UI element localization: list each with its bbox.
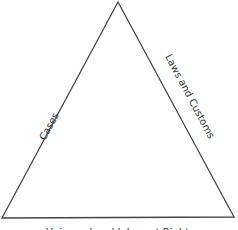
triangle-diagram: Cases Laws and Customs Universal and Inh… bbox=[0, 0, 238, 230]
left-side-label: Cases bbox=[37, 111, 61, 142]
bottom-side-label: Universal and Inherent Rights bbox=[46, 227, 195, 230]
right-side-label: Laws and Customs bbox=[163, 52, 217, 140]
